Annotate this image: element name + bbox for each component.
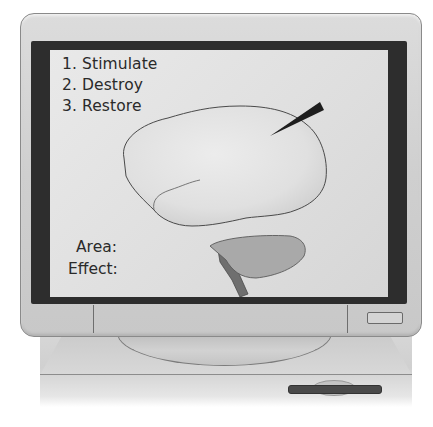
floppy-drive-icon[interactable] xyxy=(288,385,382,394)
bezel-divider-left xyxy=(93,305,94,333)
effect-label: Effect: xyxy=(68,260,118,278)
area-label: Area: xyxy=(76,238,117,256)
power-button-icon[interactable] xyxy=(367,312,403,324)
base-edge xyxy=(40,374,412,375)
bezel-divider-right xyxy=(347,305,348,333)
brain-cerebellum xyxy=(210,235,305,278)
